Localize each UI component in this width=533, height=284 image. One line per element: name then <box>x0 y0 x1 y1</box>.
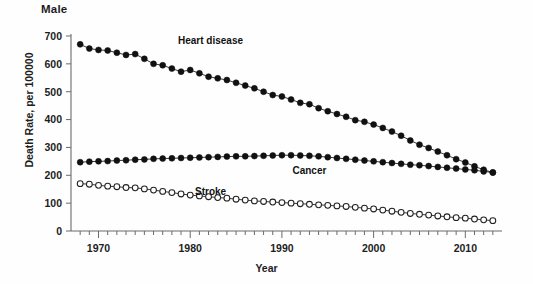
data-point <box>288 152 294 158</box>
data-point <box>270 92 276 98</box>
data-point <box>389 208 395 214</box>
data-point <box>462 215 468 221</box>
x-tick-label: 1980 <box>179 242 203 254</box>
data-point <box>362 205 368 211</box>
data-point <box>352 204 358 210</box>
data-point <box>252 198 258 204</box>
x-tick-label: 2010 <box>454 242 478 254</box>
data-point <box>453 166 459 172</box>
data-point <box>389 160 395 166</box>
data-point <box>270 199 276 205</box>
data-point <box>444 165 450 171</box>
data-point <box>77 41 83 47</box>
data-point <box>416 162 422 168</box>
y-tick-group: 0100200300400500600700 <box>44 30 71 237</box>
data-point <box>114 184 120 190</box>
data-point <box>334 155 340 161</box>
data-point <box>123 185 129 191</box>
data-point <box>96 47 102 53</box>
x-tick-label: 1970 <box>87 242 111 254</box>
y-tick-label: 500 <box>44 86 62 98</box>
data-point <box>77 181 83 187</box>
data-point <box>114 158 120 164</box>
y-tick-label: 100 <box>44 197 62 209</box>
data-point <box>279 152 285 158</box>
data-point <box>398 161 404 167</box>
data-point <box>251 153 257 159</box>
data-point <box>169 66 175 72</box>
data-point <box>435 164 441 170</box>
data-point <box>389 129 395 135</box>
data-point <box>114 50 120 56</box>
data-point <box>343 114 349 120</box>
data-point <box>306 153 312 159</box>
data-point <box>444 152 450 158</box>
data-point <box>361 158 367 164</box>
data-point <box>352 157 358 163</box>
data-point <box>361 119 367 125</box>
data-point <box>151 156 157 162</box>
data-point <box>169 155 175 161</box>
data-point <box>325 202 331 208</box>
series-annotation-group: Heart diseaseCancerStroke <box>178 35 326 197</box>
data-point <box>151 187 157 193</box>
data-point <box>206 154 212 160</box>
plot-area: 0100200300400500600700 19701980199020002… <box>0 0 533 284</box>
data-point <box>105 183 111 189</box>
data-point <box>453 215 459 221</box>
data-point <box>490 218 496 224</box>
data-point <box>105 47 111 53</box>
data-point <box>426 163 432 169</box>
data-point <box>251 85 257 91</box>
data-point <box>371 122 377 128</box>
data-point <box>123 157 129 163</box>
data-point <box>306 101 312 107</box>
data-point <box>242 153 248 159</box>
data-point <box>435 213 441 219</box>
data-point <box>435 149 441 155</box>
data-point <box>380 125 386 131</box>
data-point <box>233 80 239 86</box>
series-label-stroke: Stroke <box>195 186 227 197</box>
data-point <box>224 154 230 160</box>
data-point <box>86 181 92 187</box>
data-point <box>288 97 294 103</box>
data-point <box>270 153 276 159</box>
data-point <box>297 201 303 207</box>
data-point <box>481 217 487 223</box>
data-point <box>141 156 147 162</box>
data-point <box>261 199 267 205</box>
data-point <box>196 70 202 76</box>
data-point <box>462 166 468 172</box>
chart-figure: Male Death Rate, per 100000 Year 0100200… <box>0 0 533 284</box>
data-point-group <box>77 41 496 223</box>
data-point <box>233 153 239 159</box>
data-point <box>96 158 102 164</box>
y-tick-label: 400 <box>44 113 62 125</box>
data-point <box>224 77 230 83</box>
data-point <box>398 209 404 215</box>
data-point <box>105 158 111 164</box>
data-point <box>86 46 92 52</box>
series-label-cancer: Cancer <box>292 165 326 176</box>
data-point <box>141 56 147 62</box>
data-point <box>417 211 423 217</box>
data-point <box>279 93 285 99</box>
data-point <box>160 156 166 162</box>
data-point <box>261 89 267 95</box>
data-point <box>123 52 129 58</box>
data-point <box>178 191 184 197</box>
data-point <box>490 170 496 176</box>
data-point <box>343 204 349 210</box>
data-point <box>444 214 450 220</box>
y-tick-label: 700 <box>44 30 62 42</box>
x-tick-label: 1990 <box>270 242 294 254</box>
data-point <box>178 69 184 75</box>
data-point <box>215 75 221 81</box>
y-tick-label: 200 <box>44 169 62 181</box>
data-point <box>325 108 331 114</box>
data-point <box>453 156 459 162</box>
data-point <box>407 137 413 143</box>
data-point <box>334 203 340 209</box>
data-point <box>316 153 322 159</box>
